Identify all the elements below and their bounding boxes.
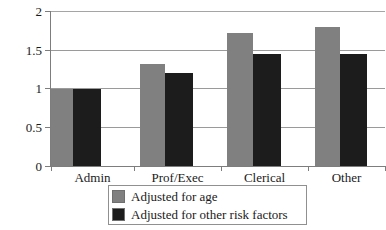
gridline-2 bbox=[51, 11, 385, 12]
y-tick-label-2: 2 bbox=[0, 5, 42, 18]
x-axis-label-profexec: Prof/Exec bbox=[134, 170, 221, 185]
bar-admin-adjusted-for-other-risk-factors bbox=[73, 89, 101, 167]
x-axis-label-other: Other bbox=[308, 170, 385, 185]
y-tick-mark-0-5 bbox=[45, 127, 51, 128]
chart-legend: Adjusted for age Adjusted for other risk… bbox=[108, 185, 307, 225]
bar-chart: 2 1.5 1 0.5 0 Admin Prof/Exec Clerical O… bbox=[0, 0, 386, 230]
legend-swatch-icon-black bbox=[112, 208, 125, 221]
bar-clerical-adjusted-for-age bbox=[227, 33, 253, 166]
x-axis-label-clerical: Clerical bbox=[221, 170, 308, 185]
legend-label-adjusted-for-age: Adjusted for age bbox=[131, 190, 218, 204]
legend-item-adjusted-for-age: Adjusted for age bbox=[112, 188, 306, 205]
bar-other-adjusted-for-other-risk-factors bbox=[340, 54, 367, 166]
y-tick-mark-1-5 bbox=[45, 50, 51, 51]
x-axis-line bbox=[50, 166, 385, 167]
y-tick-label-0: 0 bbox=[0, 160, 42, 173]
bar-clerical-adjusted-for-other-risk-factors bbox=[253, 54, 281, 166]
y-tick-label-1-5: 1.5 bbox=[0, 44, 42, 57]
y-tick-label-1: 1 bbox=[0, 82, 42, 95]
bar-other-adjusted-for-age bbox=[315, 27, 340, 167]
y-tick-mark-2 bbox=[45, 11, 51, 12]
y-tick-mark-1 bbox=[45, 88, 51, 89]
legend-swatch-icon-gray bbox=[112, 190, 125, 203]
bar-profexec-adjusted-for-age bbox=[140, 64, 165, 166]
plot-area bbox=[51, 11, 385, 166]
bar-profexec-adjusted-for-other-risk-factors bbox=[165, 73, 193, 166]
y-tick-label-0-5: 0.5 bbox=[0, 121, 42, 134]
legend-label-adjusted-for-other-risk-factors: Adjusted for other risk factors bbox=[131, 208, 288, 222]
legend-item-adjusted-for-other-risk-factors: Adjusted for other risk factors bbox=[112, 206, 306, 223]
x-axis-label-admin: Admin bbox=[51, 170, 134, 185]
bar-admin-adjusted-for-age bbox=[51, 89, 73, 167]
